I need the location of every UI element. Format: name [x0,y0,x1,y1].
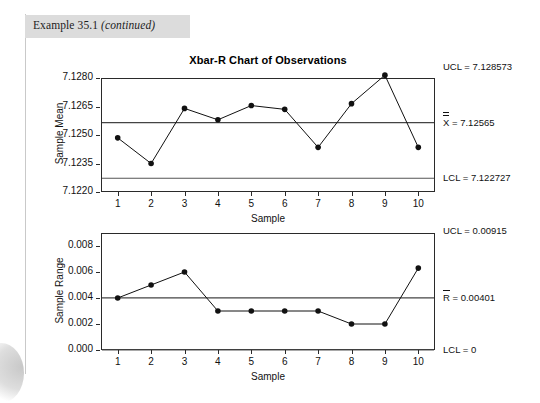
xbar-y-tick-label: 7.1265 [41,100,93,111]
xbar-y-tick-mark [96,135,100,136]
xbar-x-tick-mark [218,192,219,196]
xbar-y-tick-mark [96,164,100,165]
range-x-tick-label: 10 [403,356,433,367]
xbar-x-tick-label: 5 [236,198,266,209]
xbar-x-tick-label: 2 [136,198,166,209]
xbar-x-tick-mark [251,192,252,196]
range-x-tick-mark [285,350,286,354]
range-x-tick-label: 7 [303,356,333,367]
range-y-tick-label: 0.002 [41,317,93,328]
xbar-x-tick-label: 10 [403,198,433,209]
xbar-x-tick-mark [118,192,119,196]
range-x-tick-label: 9 [370,356,400,367]
xbar-center-line-symbol: X [443,117,449,128]
range-x-tick-mark [118,350,119,354]
range-center-line-symbol: R [443,292,450,303]
xbar-x-tick-label: 1 [103,198,133,209]
xbar-x-tick-mark [352,192,353,196]
range-x-tick-label: 8 [337,356,367,367]
range-y-tick-mark [96,246,100,247]
range-x-tick-label: 5 [236,356,266,367]
range-x-tick-label: 6 [270,356,300,367]
range-y-tick-label: 0.004 [41,291,93,302]
range-y-tick-mark [96,324,100,325]
range-x-tick-label: 1 [103,356,133,367]
xbar-cl-annotation: X = 7.12565 [443,117,495,128]
range-chart-panel: Sample Range Sample 0.0000.0020.0040.006… [0,220,540,389]
xbar-x-tick-label: 6 [270,198,300,209]
range-x-tick-label: 4 [203,356,233,367]
range-y-tick-mark [96,350,100,351]
xbar-y-tick-label: 7.1235 [41,157,93,168]
xbar-center-line-value: = 7.12565 [449,117,494,128]
xbar-x-tick-mark [418,192,419,196]
xbar-x-tick-label: 8 [337,198,367,209]
range-x-tick-mark [151,350,152,354]
range-y-tick-mark [96,298,100,299]
range-y-tick-label: 0.000 [41,343,93,354]
range-y-tick-label: 0.008 [41,239,93,250]
range-x-tick-mark [352,350,353,354]
range-x-tick-mark [318,350,319,354]
range-x-tick-mark [251,350,252,354]
xbar-chart-panel: Sample Mean Sample 7.12207.12357.12507.1… [0,0,540,220]
range-x-tick-label: 3 [170,356,200,367]
xbar-y-tick-label: 7.1250 [41,128,93,139]
range-cl-annotation: R = 0.00401 [443,292,495,303]
xbar-y-tick-label: 7.1220 [41,185,93,196]
range-x-tick-mark [385,350,386,354]
xbar-x-tick-label: 3 [170,198,200,209]
xbar-ucl-annotation: UCL = 7.128573 [443,61,512,72]
xbar-x-tick-mark [151,192,152,196]
xbar-y-tick-mark [96,192,100,193]
xbar-y-tick-label: 7.1280 [41,71,93,82]
xbar-x-tick-mark [185,192,186,196]
range-y-tick-mark [96,272,100,273]
xbar-x-tick-mark [318,192,319,196]
range-x-tick-mark [418,350,419,354]
xbar-x-tick-label: 7 [303,198,333,209]
range-x-tick-label: 2 [136,356,166,367]
range-x-tick-mark [218,350,219,354]
xbar-x-tick-label: 9 [370,198,400,209]
xbar-y-tick-mark [96,107,100,108]
range-y-tick-label: 0.006 [41,265,93,276]
xbar-y-tick-mark [96,78,100,79]
xbar-lcl-annotation: LCL = 7.122727 [443,172,511,183]
range-center-line-value: = 0.00401 [450,292,495,303]
xbar-x-tick-label: 4 [203,198,233,209]
range-lcl-annotation: LCL = 0 [443,344,476,355]
xbar-x-tick-mark [285,192,286,196]
xbar-x-tick-mark [385,192,386,196]
range-ucl-annotation: UCL = 0.00915 [443,225,507,236]
range-x-tick-mark [185,350,186,354]
